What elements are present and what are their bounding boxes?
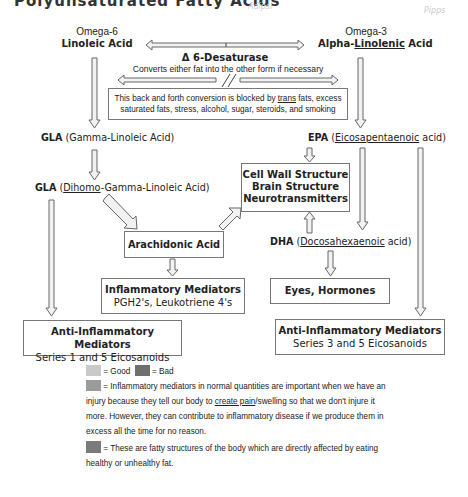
omega3-label: Omega-3 xyxy=(336,26,396,37)
eyes-hormones-box: Eyes, Hormones xyxy=(270,278,390,304)
good-label: = Good xyxy=(103,367,130,376)
bad-color-swatch xyxy=(135,365,150,376)
double-arrow-icon xyxy=(146,40,304,50)
down-arrow-icon xyxy=(89,58,100,128)
down-arrow-icon xyxy=(46,200,57,316)
gla-label: GLA (Gamma-Linoleic Acid) xyxy=(41,132,174,143)
up-arrow-icon xyxy=(304,212,315,233)
down-arrow-icon xyxy=(355,58,366,128)
dgla-label: GLA (Dihomo-Gamma-Linoleic Acid) xyxy=(35,182,209,193)
good-color-swatch xyxy=(86,365,101,376)
down-arrow-icon xyxy=(325,251,336,276)
desaturase-title: Δ 6-Desaturase xyxy=(175,52,275,63)
down-arrow-icon xyxy=(415,148,426,316)
desaturase-subtitle: Converts either fat into the other form … xyxy=(120,64,336,74)
anti-inflammatory-series3-box: Anti-Inflammatory Mediators Series 3 and… xyxy=(275,319,445,355)
legend-fatty-row: = These are fatty structures of the body… xyxy=(86,441,396,456)
epa-label: EPA (Eicosapentaenoic acid) xyxy=(308,132,446,143)
legend-text: excess all the time for no reason. xyxy=(86,424,396,439)
down-arrow-icon xyxy=(89,150,100,180)
inflammatory-color-swatch xyxy=(86,380,101,391)
legend-inflammatory-row: = Inflammatory mediators in normal quant… xyxy=(86,379,396,394)
legend-text: healthy or unhealthy fat. xyxy=(86,456,396,471)
legend-text: = Inflammatory mediators in normal quant… xyxy=(103,382,385,391)
down-arrow-icon xyxy=(357,148,368,230)
alpha-linolenic-acid-label: Alpha-Linolenic Acid xyxy=(318,38,428,49)
diagonal-arrow-icon xyxy=(103,194,137,229)
down-arrow-icon xyxy=(167,259,178,276)
broken-double-arrow-icon xyxy=(118,74,338,87)
legend-good-bad-row: = Good = Bad xyxy=(86,364,396,379)
legend-text: more. However, they can contribute to in… xyxy=(86,409,396,424)
inflammatory-mediators-box: Inflammatory Mediators PGH2's, Leukotrie… xyxy=(101,278,245,314)
linoleic-acid-label: Linoleic Acid xyxy=(56,38,138,49)
dha-label: DHA (Docosahexaenoic acid) xyxy=(270,236,411,247)
bad-label: = Bad xyxy=(152,367,174,376)
legend-text: injury because they tell our body to cre… xyxy=(86,394,396,409)
cell-brain-structure-box: Cell Wall Structure Brain Structure Neur… xyxy=(241,163,350,212)
conversion-blocked-box: This back and forth conversion is blocke… xyxy=(108,88,348,120)
anti-inflammatory-series1-box: Anti-Inflammatory Mediators Series 1 and… xyxy=(23,320,182,356)
omega6-label: Omega-6 xyxy=(68,26,126,37)
diagonal-arrow-icon xyxy=(219,208,241,230)
legend: = Good = Bad = Inflammatory mediators in… xyxy=(86,364,396,471)
fatty-structures-color-swatch xyxy=(86,441,101,453)
down-arrow-icon xyxy=(304,148,315,162)
arachidonic-acid-box: Arachidonic Acid xyxy=(124,231,224,258)
legend-text: = These are fatty structures of the body… xyxy=(103,444,378,453)
